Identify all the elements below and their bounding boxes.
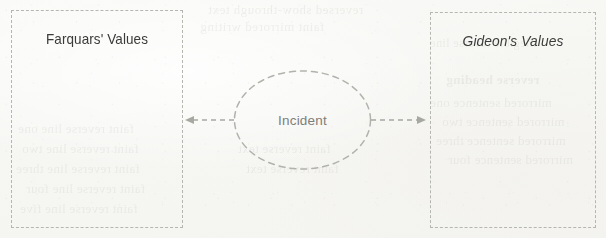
incident-node: Incident	[233, 70, 372, 170]
showthrough-text: faint mirrored writing	[200, 19, 324, 35]
gideons-values-box: Gideon's Values	[430, 12, 596, 228]
farquars-values-box: Farquars' Values	[11, 10, 183, 228]
gideons-values-label: Gideon's Values	[435, 33, 591, 49]
arrow-right-icon	[369, 106, 429, 134]
farquars-values-label: Farquars' Values	[18, 31, 176, 47]
showthrough-text: reversed show-through text	[208, 2, 363, 18]
arrow-left-icon	[182, 106, 236, 134]
connector-left-arrow	[182, 106, 236, 134]
incident-label: Incident	[233, 70, 372, 170]
connector-right-arrow	[369, 106, 429, 134]
diagram-canvas: reversed show-through text faint mirrore…	[0, 0, 606, 238]
